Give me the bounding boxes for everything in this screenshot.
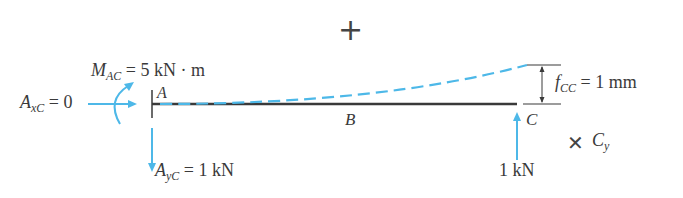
released-reaction-label: Cy (592, 130, 609, 154)
point-b-label: B (345, 110, 355, 130)
horizontal-reaction-label: AxC = 0 (20, 92, 73, 116)
vertical-reaction-label: AyC = 1 kN (155, 160, 234, 184)
moment-label: MAC = 5 kN · m (91, 60, 205, 84)
point-c-label: C (526, 110, 537, 130)
deflection-label: fCC = 1 mm (555, 72, 637, 96)
applied-load-label: 1 kN (499, 160, 535, 181)
sign-plus-icon: + (338, 12, 363, 47)
released-reaction-cross-icon: ✕ (567, 131, 584, 155)
point-a-label: A (157, 84, 167, 102)
deflected-shape-curve (160, 65, 527, 104)
